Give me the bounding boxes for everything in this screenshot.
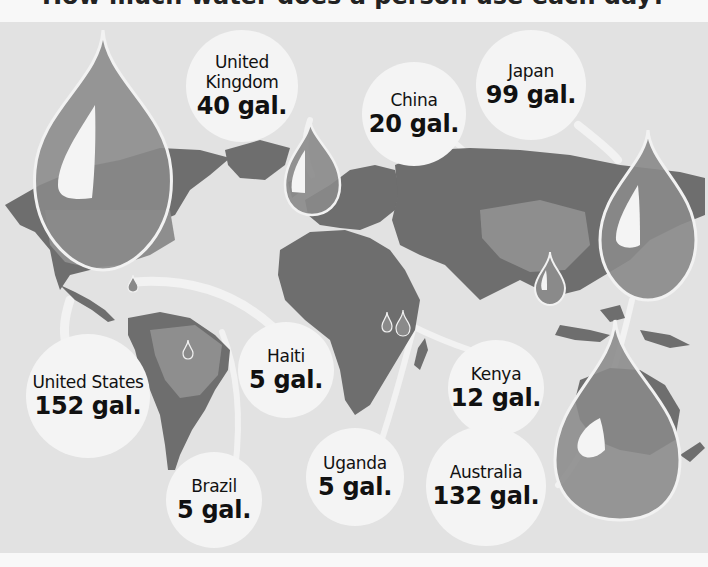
water-amount: 40 gal.: [197, 92, 287, 120]
water-amount: 20 gal.: [369, 110, 459, 138]
bubble-haiti: Haiti 5 gal.: [238, 322, 334, 418]
water-amount: 132 gal.: [433, 482, 540, 510]
country-name: Uganda: [323, 453, 387, 473]
country-name: Australia: [450, 462, 523, 482]
madagascar: [414, 338, 428, 370]
top-strip: How much water does a person use each da…: [0, 0, 708, 22]
country-name: United: [215, 52, 269, 72]
bubble-uganda: Uganda 5 gal.: [306, 428, 404, 526]
country-name: China: [390, 90, 437, 110]
bubble-china: China 20 gal.: [362, 62, 466, 166]
bottom-strip: [0, 553, 708, 567]
water-amount: 12 gal.: [451, 384, 541, 412]
water-amount: 5 gal.: [318, 473, 392, 501]
country-name-line2: Kingdom: [205, 72, 278, 92]
drop-united-kingdom: [285, 120, 340, 215]
bubble-australia: Australia 132 gal.: [426, 426, 546, 546]
water-amount: 152 gal.: [35, 392, 142, 420]
new-zealand: [680, 442, 705, 462]
bubble-united-states: United States 152 gal.: [26, 334, 150, 458]
country-name: Haiti: [267, 346, 305, 366]
water-amount: 5 gal.: [177, 496, 251, 524]
greenland: [225, 140, 290, 180]
country-name: Japan: [508, 61, 554, 81]
bubble-kenya: Kenya 12 gal.: [448, 340, 544, 436]
page-title-cropped: How much water does a person use each da…: [0, 0, 708, 20]
bubble-japan: Japan 99 gal.: [476, 30, 586, 140]
drop-australia: [555, 320, 680, 520]
water-amount: 99 gal.: [486, 81, 576, 109]
infographic-panel: United Kingdom 40 gal. China 20 gal. Jap…: [0, 22, 708, 553]
bubble-united-kingdom: United Kingdom 40 gal.: [186, 30, 298, 142]
country-name: Brazil: [191, 476, 237, 496]
bubble-brazil: Brazil 5 gal.: [166, 452, 262, 548]
water-amount: 5 gal.: [249, 366, 323, 394]
country-name: United States: [32, 372, 143, 392]
country-name: Kenya: [471, 364, 522, 384]
drop-united-states: [35, 30, 172, 270]
